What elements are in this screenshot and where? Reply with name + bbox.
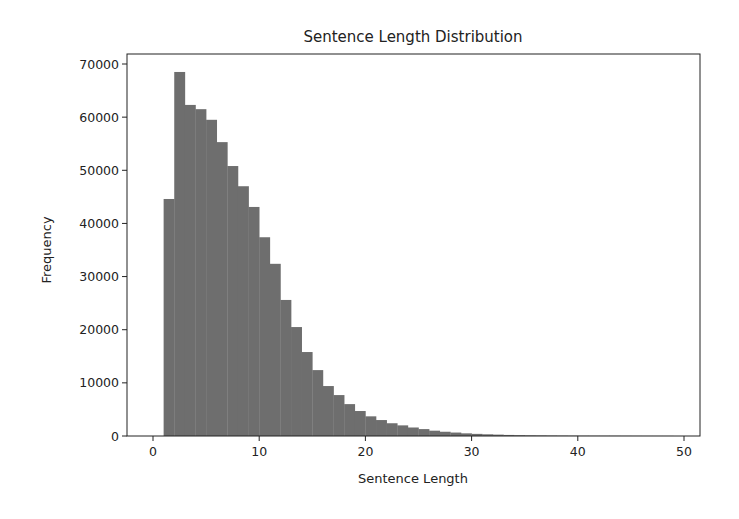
histogram-bar xyxy=(302,352,313,436)
histogram-bar xyxy=(440,432,451,436)
histogram-bar xyxy=(312,370,323,436)
histogram-bar xyxy=(387,423,398,436)
y-tick-label: 70000 xyxy=(79,57,119,72)
histogram-bar xyxy=(174,72,185,436)
histogram-bar xyxy=(270,264,281,436)
x-tick-label: 40 xyxy=(570,444,586,459)
histogram-bar xyxy=(408,427,419,436)
histogram-bars xyxy=(164,72,674,436)
histogram-bar xyxy=(344,404,355,436)
histogram-bar xyxy=(291,327,302,436)
histogram-bar xyxy=(397,425,408,436)
y-tick-label: 0 xyxy=(111,429,119,444)
histogram-chart: 010000200003000040000500006000070000 010… xyxy=(0,0,739,519)
histogram-bar xyxy=(334,395,345,436)
histogram-bar xyxy=(419,429,430,436)
histogram-bar xyxy=(164,199,175,436)
histogram-bar xyxy=(259,237,270,436)
histogram-bar xyxy=(365,416,376,436)
histogram-bar xyxy=(355,411,366,436)
histogram-bar xyxy=(195,109,206,436)
y-axis: 010000200003000040000500006000070000 xyxy=(79,57,127,444)
histogram-bar xyxy=(323,386,334,436)
y-tick-label: 10000 xyxy=(79,375,119,390)
y-tick-label: 40000 xyxy=(79,216,119,231)
x-tick-label: 30 xyxy=(464,444,480,459)
x-axis: 01020304050 xyxy=(149,436,692,459)
histogram-bar xyxy=(280,300,291,436)
chart-title: Sentence Length Distribution xyxy=(303,28,522,46)
histogram-bar xyxy=(217,142,228,436)
y-tick-label: 20000 xyxy=(79,322,119,337)
y-axis-label: Frequency xyxy=(39,216,54,283)
x-axis-label: Sentence Length xyxy=(358,471,468,486)
histogram-bar xyxy=(450,433,461,436)
histogram-bar xyxy=(227,166,238,436)
y-tick-label: 30000 xyxy=(79,269,119,284)
histogram-bar xyxy=(238,186,249,436)
histogram-bar xyxy=(206,120,217,436)
x-tick-label: 0 xyxy=(149,444,157,459)
x-tick-label: 20 xyxy=(357,444,373,459)
histogram-bar xyxy=(185,105,196,436)
histogram-bar xyxy=(376,420,387,436)
x-tick-label: 50 xyxy=(676,444,692,459)
x-tick-label: 10 xyxy=(251,444,267,459)
y-tick-label: 50000 xyxy=(79,163,119,178)
y-tick-label: 60000 xyxy=(79,110,119,125)
histogram-bar xyxy=(249,207,260,436)
histogram-bar xyxy=(429,431,440,436)
